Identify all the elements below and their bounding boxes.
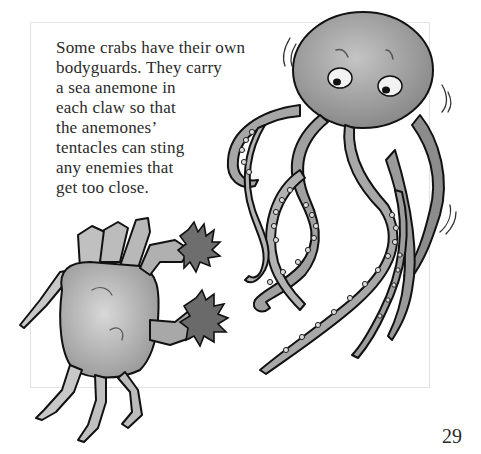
text-line: Some crabs have their own: [56, 38, 245, 58]
crab: [20, 218, 200, 442]
text-line: any enemies that: [56, 158, 245, 178]
text-line: a sea anemone in: [56, 78, 245, 98]
page-number: 29: [442, 425, 462, 448]
crab-shell: [60, 262, 158, 378]
text-line: tentacles can sting: [56, 138, 245, 158]
text-line: get too close.: [56, 178, 245, 198]
sea-anemone-upper: [178, 222, 220, 272]
octopus-head: [293, 12, 433, 128]
octopus-right-eye: [378, 76, 402, 96]
text-line: each claw so that: [56, 98, 245, 118]
sea-anemone-lower: [180, 290, 228, 346]
text-line: the anemones’: [56, 118, 245, 138]
text-line: bodyguards. They carry: [56, 58, 245, 78]
body-text: Some crabs have their own bodyguards. Th…: [56, 38, 245, 198]
octopus-left-eye: [328, 68, 352, 88]
octopus: [228, 12, 456, 374]
